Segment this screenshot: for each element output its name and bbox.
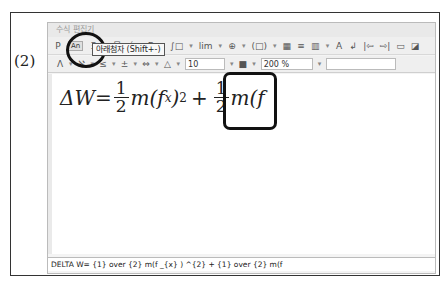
dropdown-icon[interactable]: ▾ [242,42,246,50]
dropdown-icon[interactable]: ▾ [189,42,193,50]
dropdown-icon[interactable]: ▾ [177,60,181,68]
dropdown-icon[interactable]: ▾ [219,42,223,50]
dropdown-icon[interactable]: ▾ [326,42,330,50]
dropdown-icon[interactable]: ▾ [155,60,159,68]
decoration-icon[interactable]: △ [164,59,172,69]
dropdown-icon[interactable]: ▾ [112,60,116,68]
zoom-dropdown-icon[interactable]: ▾ [318,60,322,68]
grid-icon[interactable]: ▥ [311,41,320,51]
open-icon[interactable]: ▭ [396,41,405,51]
prev-icon[interactable]: |⇦ [363,41,374,51]
fraction-1: 1 2 [114,80,129,115]
formula-lhs: ΔW= [60,86,112,110]
extra-field[interactable] [326,58,396,70]
operator-icon[interactable]: ± [121,59,129,69]
zoom-field[interactable]: 200 % [261,58,313,70]
arrow-icon[interactable]: ⇔ [142,59,150,69]
superscript-icon[interactable]: P [54,41,62,51]
integral-icon[interactable]: ∫□ [170,41,183,51]
font-size-dropdown-icon[interactable]: ▾ [230,60,234,68]
tooltip: 아래첨자 (Shift+-) [92,43,165,56]
term1-close: ) [172,86,180,110]
step-label: (2) [14,52,35,70]
toolbar-row-2: Λ▾ℵ▾≤▾±▾⇔▾△▾ 10 ▾ ■ ▾ 200 % ▾ [48,56,435,73]
plus-sign: + [191,86,208,110]
term1: m(f [131,86,165,110]
font-icon[interactable]: A [335,41,343,51]
dropdown-icon[interactable]: ▾ [273,42,277,50]
window-title: 수식 편집기 [48,23,435,37]
script-input[interactable]: DELTA W= {1} over {2} m(f _{x} ) ^{2} + … [48,257,435,271]
next-icon[interactable]: ⇨| [380,41,391,51]
fraction-1-denominator: 2 [116,98,127,115]
greek-icon[interactable]: Λ [56,59,64,69]
limit-icon[interactable]: lim [199,41,213,51]
enter-icon[interactable]: ↲ [349,41,357,51]
bracket-icon[interactable]: (□) [252,41,268,51]
equation-editor-window: 수식 편집기 PAnΞ▾믐√ㅁΣ▾∫□▾lim▾⊕▾(□)▾▦≡▥▾A↲|⇦⇨|… [47,22,436,274]
font-size-field[interactable]: 10 [185,58,225,70]
color-dropdown-icon[interactable]: ▾ [252,60,256,68]
highlight-box [223,72,277,130]
dropdown-icon[interactable]: ▾ [134,60,138,68]
align-icon[interactable]: ≡ [297,41,305,51]
matrix-icon[interactable]: ▦ [283,41,292,51]
term1-subscript: x [165,91,172,105]
save-icon[interactable]: ◪ [411,41,420,51]
term1-superscript: 2 [179,91,187,105]
matrix-cross-icon[interactable]: ⊕ [228,41,236,51]
color-icon[interactable]: ■ [239,59,248,69]
